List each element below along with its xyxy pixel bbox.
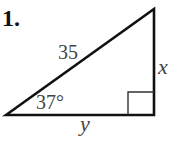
- hypotenuse-label: 35: [58, 41, 78, 63]
- triangle-outline: [6, 9, 154, 115]
- right-angle-marker: [128, 92, 154, 115]
- diagram-canvas: 1. 35 37° x y: [0, 0, 179, 143]
- right-triangle-figure: 35 37° x y: [0, 0, 179, 143]
- horizontal-leg-label: y: [78, 111, 90, 136]
- angle-label: 37°: [36, 91, 64, 113]
- vertical-leg-label: x: [157, 54, 168, 79]
